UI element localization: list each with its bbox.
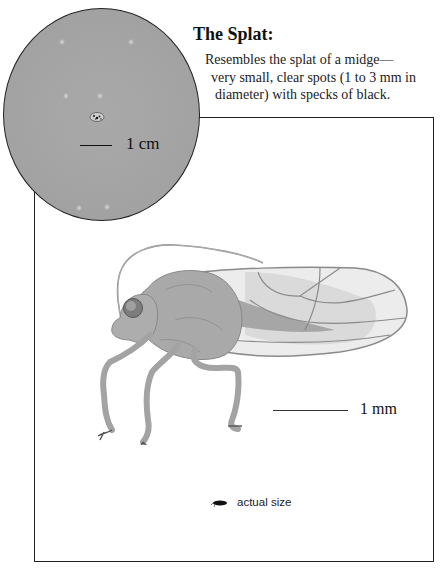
magnified-splat-view: 1 cm: [3, 8, 200, 221]
clear-spot: [76, 205, 82, 211]
splat-description: Resembles the splat of a midge— very sma…: [205, 51, 416, 104]
scale-label-mm: 1 mm: [360, 400, 397, 418]
actual-size-insect-icon: [210, 498, 228, 508]
splat-speck-icon: [89, 111, 105, 123]
description-line: diameter) with specks of black.: [205, 86, 416, 104]
clear-spot: [63, 93, 69, 99]
description-line: very small, clear spots (1 to 3 mm in: [205, 69, 416, 87]
section-title: The Splat:: [193, 24, 274, 45]
scale-bar-cm: [80, 145, 112, 146]
scale-label-cm: 1 cm: [126, 134, 160, 154]
clear-spot: [59, 39, 65, 45]
scale-bar-mm: [273, 410, 348, 411]
description-line: Resembles the splat of a midge—: [205, 51, 416, 69]
clear-spot: [128, 39, 134, 45]
actual-size-label: actual size: [237, 496, 291, 508]
clear-spot: [104, 204, 110, 210]
clear-spot: [97, 93, 103, 99]
